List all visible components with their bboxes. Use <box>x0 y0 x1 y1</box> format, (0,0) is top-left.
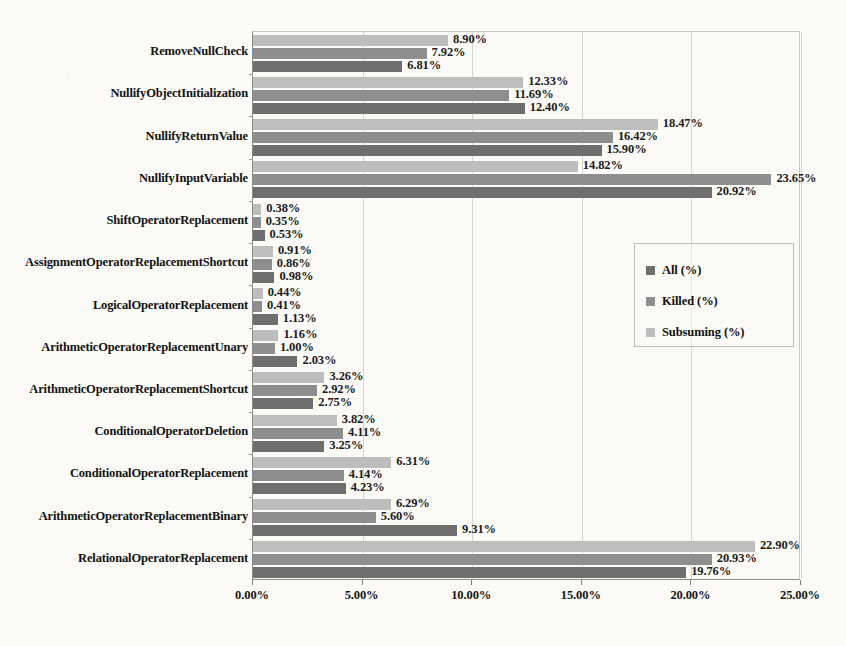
bar <box>253 90 509 101</box>
bar-group: 14.82%23.65%20.92% <box>253 159 799 201</box>
bar <box>253 483 346 494</box>
x-axis-tick-label: 5.00% <box>345 588 379 603</box>
x-axis-tick-label: 10.00% <box>451 588 491 603</box>
bar <box>253 343 275 354</box>
bar-group: 6.29%5.60%9.31% <box>253 497 799 539</box>
category-label: ConditionalOperatorReplacement <box>2 466 248 481</box>
bar-chart: RemoveNullCheckNullifyObjectInitializati… <box>0 0 846 646</box>
bar-value-label: 14.82% <box>583 158 623 173</box>
x-axis-tick-mark <box>800 580 801 585</box>
bar-value-label: 22.90% <box>760 538 800 553</box>
bar <box>253 145 602 156</box>
x-axis-tick-label: 20.00% <box>670 588 710 603</box>
legend-label: All (%) <box>662 263 701 278</box>
category-label: ArithmeticOperatorReplacementBinary <box>2 509 248 524</box>
bar <box>253 541 755 552</box>
category-label: NullifyInputVariable <box>2 171 248 186</box>
bar <box>253 512 376 523</box>
bar <box>253 415 337 426</box>
bar-value-label: 2.75% <box>318 395 352 410</box>
bar <box>253 174 771 185</box>
gridline <box>801 32 802 579</box>
legend-swatch-icon <box>646 266 655 275</box>
legend-item: All (%) <box>646 263 701 277</box>
bar <box>253 301 262 312</box>
x-axis-tick-mark <box>252 580 253 585</box>
category-label: ArithmeticOperatorReplacementUnary <box>2 340 248 355</box>
bar-group: 6.31%4.14%4.23% <box>253 454 799 496</box>
bar-value-label: 0.53% <box>270 227 304 242</box>
bar-group: 18.47%16.42%15.90% <box>253 116 799 158</box>
bar <box>253 204 261 215</box>
bar <box>253 217 261 228</box>
bar-group: 22.90%20.93%19.76% <box>253 539 799 581</box>
bar-value-label: 6.81% <box>407 58 441 73</box>
legend-swatch-icon <box>646 297 655 306</box>
bar-value-label: 1.13% <box>283 311 317 326</box>
category-label: ArithmeticOperatorReplacementShortcut <box>2 382 248 397</box>
legend-swatch-icon <box>646 328 655 337</box>
category-axis-labels: RemoveNullCheckNullifyObjectInitializati… <box>0 31 248 580</box>
bar <box>253 288 263 299</box>
bar-value-label: 6.31% <box>396 454 430 469</box>
bar-group: 12.33%11.69%12.40% <box>253 74 799 116</box>
bar <box>253 356 297 367</box>
x-axis-tick-label: 0.00% <box>235 588 269 603</box>
chart-legend: All (%)Killed (%)Subsuming (%) <box>634 243 794 347</box>
bar-value-label: 20.92% <box>717 184 757 199</box>
category-label: RelationalOperatorReplacement <box>2 551 248 566</box>
bar <box>253 372 324 383</box>
category-label: LogicalOperatorReplacement <box>2 298 248 313</box>
bar <box>253 525 457 536</box>
bar <box>253 272 274 283</box>
bar <box>253 554 712 565</box>
category-label: RemoveNullCheck <box>2 44 248 59</box>
bar-value-label: 0.98% <box>279 269 313 284</box>
bar-value-label: 5.60% <box>381 509 415 524</box>
bar <box>253 103 525 114</box>
bar-group: 3.26%2.92%2.75% <box>253 370 799 412</box>
bar <box>253 132 613 143</box>
bar <box>253 259 272 270</box>
bar-value-label: 4.23% <box>351 480 385 495</box>
x-axis-tick-label: 25.00% <box>780 588 820 603</box>
category-label: ShiftOperatorReplacement <box>2 213 248 228</box>
bar-value-label: 19.76% <box>691 564 731 579</box>
bar-value-label: 18.47% <box>663 116 703 131</box>
bar <box>253 385 317 396</box>
category-label: ConditionalOperatorDeletion <box>2 424 248 439</box>
bar <box>253 246 273 257</box>
bar <box>253 398 313 409</box>
bar-value-label: 23.65% <box>776 171 816 186</box>
bar-value-label: 3.25% <box>329 438 363 453</box>
bar-value-label: 2.03% <box>302 353 336 368</box>
legend-item: Subsuming (%) <box>646 325 744 339</box>
bar-group: 3.82%4.11%3.25% <box>253 412 799 454</box>
category-label: NullifyObjectInitialization <box>2 86 248 101</box>
bar <box>253 470 344 481</box>
x-axis-tick-mark <box>690 580 691 585</box>
x-axis-tick-mark <box>362 580 363 585</box>
legend-label: Subsuming (%) <box>662 325 744 340</box>
bar <box>253 161 578 172</box>
x-axis: 0.00%5.00%10.00%15.00%20.00%25.00% <box>0 582 846 612</box>
legend-item: Killed (%) <box>646 294 718 308</box>
x-axis-tick-label: 15.00% <box>561 588 601 603</box>
bar <box>253 35 448 46</box>
bar <box>253 567 686 578</box>
bar <box>253 119 658 130</box>
bar <box>253 230 265 241</box>
bar <box>253 314 278 325</box>
x-axis-tick-mark <box>581 580 582 585</box>
bar <box>253 48 427 59</box>
bar <box>253 330 278 341</box>
legend-label: Killed (%) <box>662 294 718 309</box>
bar-value-label: 12.40% <box>530 100 570 115</box>
category-label: AssignmentOperatorReplacementShortcut <box>2 255 248 270</box>
bar-value-label: 15.90% <box>607 142 647 157</box>
bar-group: 8.90%7.92%6.81% <box>253 32 799 74</box>
bar-value-label: 9.31% <box>462 522 496 537</box>
bar <box>253 61 402 72</box>
x-axis-tick-mark <box>471 580 472 585</box>
bar-group: 0.38%0.35%0.53% <box>253 201 799 243</box>
